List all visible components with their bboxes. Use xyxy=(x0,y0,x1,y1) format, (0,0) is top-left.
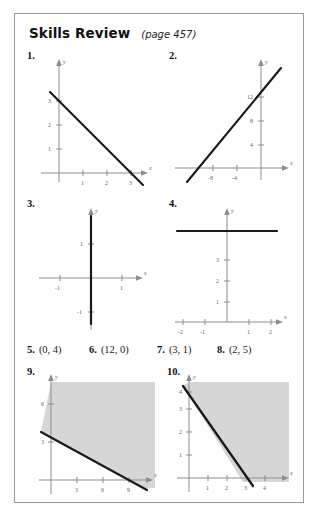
answers-row: 5. (0, 4) 6. (12, 0) 7. (3, 1) 8. (2, 5) xyxy=(15,344,303,355)
answer-value-7: (3, 1) xyxy=(169,344,192,355)
answer-value-5: (0, 4) xyxy=(39,344,62,355)
problem-row-3: 9. y x 3 6 xyxy=(15,366,303,504)
graph-10-xaxis-label: x xyxy=(289,470,293,476)
svg-text:-8: -8 xyxy=(208,175,213,181)
problem-cell-3: 3. y x -1 1 xyxy=(15,196,159,344)
graph-2-xaxis-label: x xyxy=(289,160,293,166)
page-reference: (page 457) xyxy=(141,29,196,40)
worksheet-page: Skills Review (page 457) 1. x y xyxy=(14,13,304,503)
svg-text:2: 2 xyxy=(179,429,182,435)
svg-text:1: 1 xyxy=(247,329,250,335)
svg-text:4: 4 xyxy=(179,389,182,395)
answer-number-8: 8. xyxy=(217,344,225,355)
svg-text:3: 3 xyxy=(179,406,182,412)
svg-text:-4: -4 xyxy=(232,175,237,181)
graph-3-xaxis-label: x xyxy=(143,270,147,276)
svg-text:3: 3 xyxy=(75,487,78,493)
graph-10-svg: y x 1 2 3 4 1 xyxy=(171,370,299,504)
answer-item-6: 6. (12, 0) xyxy=(89,344,157,355)
answer-item-5: 5. (0, 4) xyxy=(27,344,89,355)
svg-text:-1: -1 xyxy=(200,329,205,335)
answer-number-6: 6. xyxy=(89,344,97,355)
svg-text:1: 1 xyxy=(179,452,182,458)
svg-text:12: 12 xyxy=(247,94,253,100)
graph-2-svg: y x -8 -4 4 8 xyxy=(165,54,301,190)
svg-text:2: 2 xyxy=(216,278,219,284)
answer-value-8: (2, 5) xyxy=(229,344,252,355)
svg-text:1: 1 xyxy=(80,241,83,247)
page-title: Skills Review xyxy=(29,25,130,41)
answer-item-8: 8. (2, 5) xyxy=(217,344,275,355)
graph-4-xaxis-label: x xyxy=(283,314,287,320)
svg-text:1: 1 xyxy=(120,285,123,291)
graph-1: x y 1 2 3 1 2 xyxy=(33,54,155,190)
answer-number-7: 7. xyxy=(157,344,165,355)
graph-10: y x 1 2 3 4 1 xyxy=(171,370,299,504)
problem-row-2: 3. y x -1 1 xyxy=(15,196,303,344)
graph-1-xaxis-label: x xyxy=(148,165,152,171)
graph-4-yaxis-label: y xyxy=(230,208,234,214)
graph-3-svg: y x -1 1 1 -1 xyxy=(29,202,157,338)
graph-10-shaded-region xyxy=(183,382,289,482)
svg-text:6: 6 xyxy=(101,487,104,493)
svg-text:9: 9 xyxy=(127,487,130,493)
svg-text:1: 1 xyxy=(81,180,84,186)
problem-cell-4: 4. y x -2 -1 xyxy=(159,196,303,344)
problem-row-1: 1. x y 1 2 xyxy=(15,48,303,196)
svg-text:8: 8 xyxy=(250,118,253,124)
graph-9-svg: y x 3 6 9 6 3 xyxy=(33,370,159,504)
svg-text:3: 3 xyxy=(244,485,247,491)
graph-2: y x -8 -4 4 8 xyxy=(165,54,301,190)
graph-9-yaxis-label: y xyxy=(54,374,58,380)
page-header: Skills Review (page 457) xyxy=(29,25,196,41)
problem-cell-2: 2. y x -8 -4 xyxy=(159,48,303,196)
graph-9: y x 3 6 9 6 3 xyxy=(33,370,159,504)
graph-1-yaxis-label: y xyxy=(62,59,66,65)
graph-4-svg: y x -2 -1 1 2 xyxy=(165,202,301,338)
answer-item-7: 7. (3, 1) xyxy=(157,344,217,355)
svg-text:3: 3 xyxy=(216,257,219,263)
answer-number-5: 5. xyxy=(27,344,35,355)
svg-text:4: 4 xyxy=(250,142,253,148)
svg-text:-1: -1 xyxy=(55,285,60,291)
svg-text:1: 1 xyxy=(48,146,51,152)
svg-text:2: 2 xyxy=(48,122,51,128)
graph-9-xaxis-label: x xyxy=(153,472,157,478)
svg-text:-2: -2 xyxy=(178,329,183,335)
graph-1-svg: x y 1 2 3 1 2 xyxy=(33,54,155,190)
graph-10-yaxis-label: y xyxy=(192,374,196,380)
graph-3-yaxis-label: y xyxy=(94,208,98,214)
graph-2-yaxis-label: y xyxy=(264,59,268,65)
problem-cell-10: 10. y x 1 2 xyxy=(159,366,303,504)
problem-cell-1: 1. x y 1 2 xyxy=(15,48,159,196)
svg-text:-1: -1 xyxy=(77,309,82,315)
problem-cell-9: 9. y x 3 6 xyxy=(15,366,159,504)
svg-text:2: 2 xyxy=(225,485,228,491)
graph-4: y x -2 -1 1 2 xyxy=(165,202,301,338)
answer-value-6: (12, 0) xyxy=(101,344,129,355)
svg-text:3: 3 xyxy=(48,98,51,104)
svg-text:3: 3 xyxy=(41,439,44,445)
graph-3: y x -1 1 1 -1 xyxy=(29,202,157,338)
problem-grid: 1. x y 1 2 xyxy=(15,48,303,344)
svg-text:4: 4 xyxy=(263,485,266,491)
svg-text:3: 3 xyxy=(129,180,132,186)
svg-text:1: 1 xyxy=(206,485,209,491)
svg-text:2: 2 xyxy=(105,180,108,186)
graph-9-shaded-region xyxy=(41,382,155,488)
svg-text:1: 1 xyxy=(216,299,219,305)
svg-text:2: 2 xyxy=(269,329,272,335)
svg-text:6: 6 xyxy=(41,401,44,407)
